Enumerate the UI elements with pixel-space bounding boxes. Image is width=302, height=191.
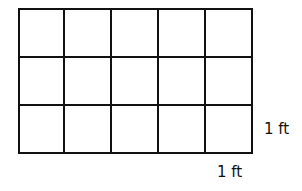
grid-lines	[19, 9, 252, 153]
unit-square-grid	[0, 0, 302, 191]
side-length-label-right: 1 ft	[264, 122, 289, 137]
grid-outline	[19, 9, 252, 153]
side-length-label-bottom: 1 ft	[217, 165, 242, 180]
